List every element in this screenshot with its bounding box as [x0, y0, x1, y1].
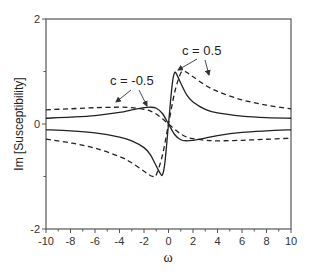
x-tick-label: -4 [115, 235, 125, 247]
chart: -10-8-6-4-20246810 -202 c = -0.5 c = 0.5… [0, 0, 310, 277]
series-lines [46, 71, 291, 177]
x-tick-label: 10 [285, 235, 297, 247]
x-tick-label: -10 [38, 235, 54, 247]
x-tick-label: 4 [214, 235, 220, 247]
annotation-c-pos: c = 0.5 [182, 43, 221, 58]
x-tick-label: 0 [165, 235, 171, 247]
x-tick-label: -6 [90, 235, 100, 247]
y-tick-label: 2 [34, 13, 40, 25]
arrow-c-neg-1 [116, 90, 131, 102]
x-tick-label: 8 [263, 235, 269, 247]
arrow-c-neg-2 [139, 90, 147, 106]
y-axis-title: Im [Susceptibility] [12, 77, 26, 170]
annotation-c-neg: c = -0.5 [110, 73, 154, 88]
x-axis-title: ω [163, 250, 172, 265]
x-tick-label: -8 [66, 235, 76, 247]
x-tick-label: -2 [139, 235, 149, 247]
y-tick-label: -2 [30, 223, 40, 235]
x-axis-ticks: -10-8-6-4-20246810 [38, 229, 297, 247]
y-tick-label: 0 [34, 118, 40, 130]
arrow-c-pos-2 [205, 60, 209, 75]
arrow-c-pos-1 [178, 59, 197, 70]
series-line [46, 107, 291, 141]
annotations: c = -0.5 c = 0.5 [110, 43, 221, 106]
y-axis-ticks: -202 [30, 13, 46, 235]
x-tick-label: 2 [190, 235, 196, 247]
x-tick-label: 6 [239, 235, 245, 247]
